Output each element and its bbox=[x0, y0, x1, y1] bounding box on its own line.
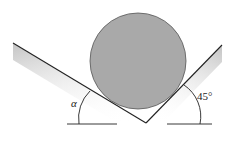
sphere-in-groove-diagram: α 45° bbox=[0, 0, 233, 143]
45-degree-angle-label: 45° bbox=[197, 90, 212, 102]
alpha-angle-label: α bbox=[71, 97, 77, 109]
sphere bbox=[90, 13, 186, 109]
